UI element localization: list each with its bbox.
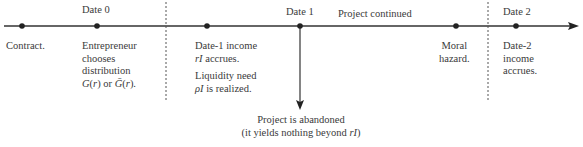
event-line: income xyxy=(503,53,537,66)
event-line: accrues. xyxy=(503,65,537,78)
event-line: hazard. xyxy=(439,53,470,66)
event-entrepreneur: Entrepreneur chooses distribution G(r) o… xyxy=(82,40,137,90)
dot-date0 xyxy=(94,23,100,29)
event-line: chooses xyxy=(82,53,137,66)
event-line-realized: ρI is realized. xyxy=(195,83,257,96)
abandon-line2-prefix: (it yields nothing beyond xyxy=(241,127,349,138)
abandon-line2: (it yields nothing beyond rI) xyxy=(238,127,364,140)
dot-contract xyxy=(19,23,25,29)
abandon-line1: Project is abandoned xyxy=(238,114,364,127)
dot-date1-income xyxy=(204,23,210,29)
event-contract: Contract. xyxy=(6,40,45,53)
date2-label: Date 2 xyxy=(503,6,531,19)
event-moral-hazard: Moral hazard. xyxy=(439,40,470,65)
event-line: Entrepreneur xyxy=(82,40,137,53)
event-line: Liquidity need xyxy=(195,70,257,83)
abandon-line2-var: rI xyxy=(349,127,357,138)
dot-date2 xyxy=(513,23,519,29)
event-line: Date-2 xyxy=(503,40,537,53)
abandon-line2-suffix: ) xyxy=(357,127,361,138)
event-line: distribution xyxy=(82,65,137,78)
date0-label: Date 0 xyxy=(82,4,110,17)
event-line: Moral xyxy=(439,40,470,53)
event-liquidity: Liquidity need ρI is realized. xyxy=(195,70,257,95)
project-continued-label: Project continued xyxy=(338,8,412,21)
event-line-distribution: G(r) or Ḡ(r). xyxy=(82,78,137,91)
abandon-label: Project is abandoned (it yields nothing … xyxy=(238,114,364,139)
event-line: Date-1 income xyxy=(195,40,257,53)
event-line-accrues: rI accrues. xyxy=(195,53,257,66)
event-contract-line: Contract. xyxy=(6,40,45,53)
dot-date1 xyxy=(297,23,303,29)
dot-moral-hazard xyxy=(453,23,459,29)
event-date2-income: Date-2 income accrues. xyxy=(503,40,537,78)
date1-label: Date 1 xyxy=(286,6,314,19)
event-date1-income: Date-1 income rI accrues. xyxy=(195,40,257,65)
